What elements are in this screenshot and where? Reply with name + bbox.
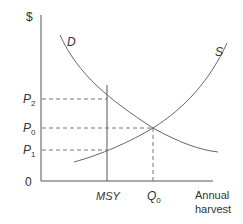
x-axis-label-line1: Annual xyxy=(195,189,229,201)
msy-label: MSY xyxy=(96,190,121,202)
x-axis-label-line2: harvest xyxy=(195,203,231,215)
demand-label: D xyxy=(67,35,76,49)
supply-curve xyxy=(74,43,227,162)
supply-demand-diagram: $ D S P2 P0 P1 0 MSY Q0 Annual harvest xyxy=(0,0,243,224)
p1-label: P1 xyxy=(23,143,36,159)
y-axis-label: $ xyxy=(26,10,33,24)
p0-label: P0 xyxy=(23,121,36,137)
supply-label: S xyxy=(215,45,223,59)
origin-label: 0 xyxy=(25,175,32,189)
p2-label: P2 xyxy=(23,92,36,108)
q0-label: Q0 xyxy=(147,189,161,205)
